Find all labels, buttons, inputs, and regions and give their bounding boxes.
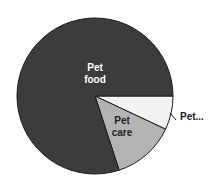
label-pet-care: Pet care bbox=[107, 115, 137, 139]
leader-line bbox=[170, 113, 176, 120]
pie-chart bbox=[0, 0, 216, 187]
label-pet-other: Pet... bbox=[180, 111, 204, 123]
pie-slices bbox=[17, 18, 173, 174]
label-pet-food: Pet food bbox=[80, 62, 110, 86]
